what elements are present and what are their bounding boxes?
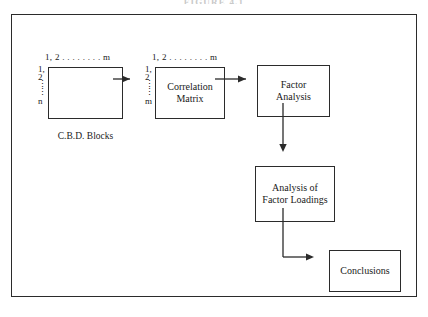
figure-caption: FIGURE 4.1 xyxy=(0,0,428,4)
arrow-cbd-to-correlation xyxy=(113,76,130,83)
diagram-connectors xyxy=(12,15,418,298)
arrow-loadings-to-conclusions xyxy=(283,208,314,261)
arrow-correlation-to-factor xyxy=(215,76,246,83)
arrow-factor-to-loadings xyxy=(279,103,286,152)
diagram-outer-frame: 1, 2 . . . . . . . . m 1, 2 ⋮ ⋮ n C.B.D.… xyxy=(11,14,417,297)
